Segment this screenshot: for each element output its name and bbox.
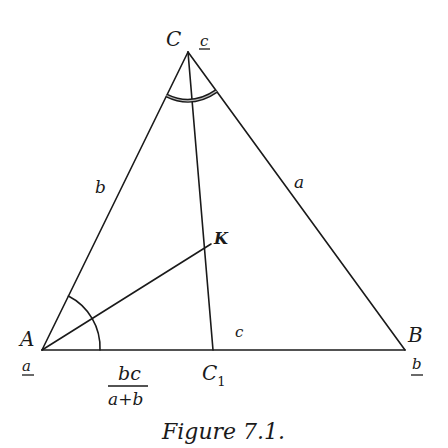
figure-caption: Figure 7.1. bbox=[161, 419, 285, 444]
side-a-bc bbox=[188, 52, 405, 350]
vertex-weight-a: a bbox=[22, 357, 31, 375]
vertex-label-b: B bbox=[407, 323, 423, 347]
side-label-c: c bbox=[235, 323, 244, 341]
vertex-weight-b: b bbox=[412, 355, 422, 373]
triangle-diagram: C c A a B b b a c K C1 bc a+b Figure 7.1… bbox=[0, 0, 448, 448]
point-label-k: K bbox=[213, 229, 229, 248]
vertex-label-a: A bbox=[18, 327, 34, 351]
point-label-c1: C1 bbox=[202, 361, 226, 389]
side-label-b: b bbox=[95, 177, 106, 197]
vertex-label-c: C bbox=[166, 27, 181, 51]
segment-length-denominator: a+b bbox=[108, 389, 143, 409]
segment-length-numerator: bc bbox=[118, 362, 141, 384]
vertex-weight-c: c bbox=[200, 32, 209, 50]
side-label-a: a bbox=[294, 172, 304, 192]
